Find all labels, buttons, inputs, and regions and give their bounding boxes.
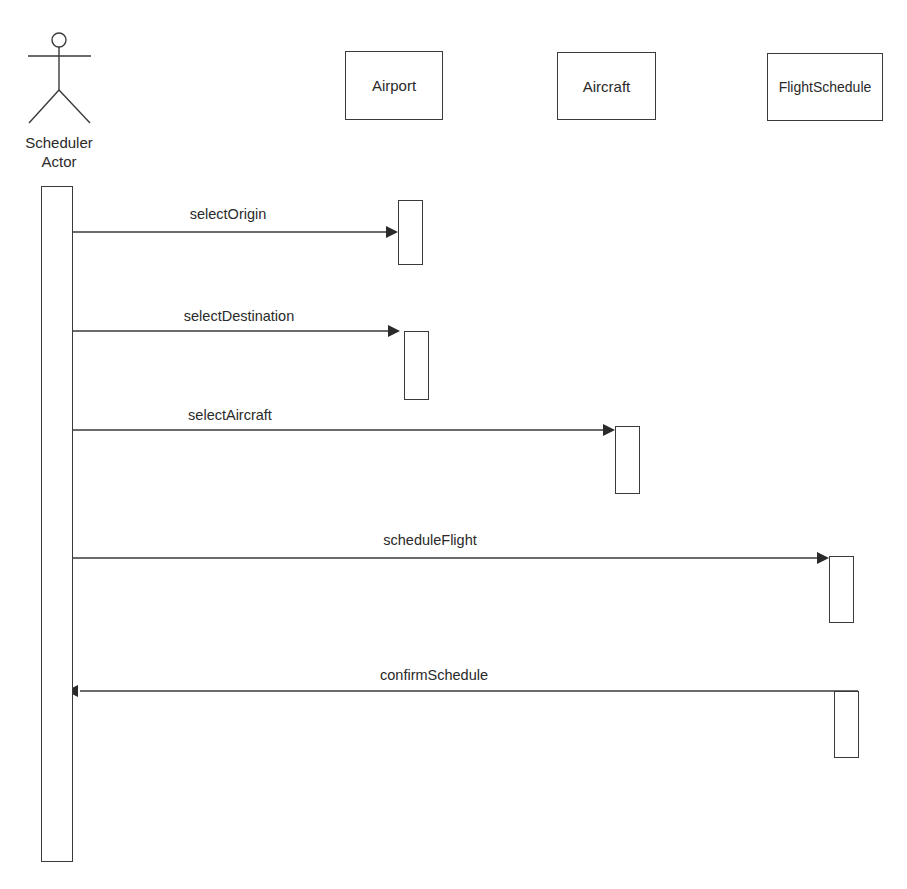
message-label-selectDestination: selectDestination bbox=[184, 308, 294, 324]
participant-aircraft[interactable]: Aircraft bbox=[557, 52, 656, 120]
stick-figure-actor-icon bbox=[28, 33, 91, 123]
actor-label-line1: Scheduler bbox=[9, 133, 109, 152]
actor-label-line2: Actor bbox=[9, 152, 109, 171]
arrow-selectOrigin bbox=[72, 226, 398, 238]
participant-label: Aircraft bbox=[583, 78, 631, 95]
message-label-selectOrigin: selectOrigin bbox=[190, 206, 267, 222]
arrow-scheduleFlight bbox=[72, 552, 829, 564]
actor-label: Scheduler Actor bbox=[9, 133, 109, 171]
message-label-selectAircraft: selectAircraft bbox=[188, 407, 272, 423]
participant-label: FlightSchedule bbox=[779, 79, 872, 95]
activation-airport-2 bbox=[404, 331, 429, 400]
sequence-diagram: Scheduler Actor Airport Aircraft FlightS… bbox=[0, 0, 907, 889]
arrow-selectAircraft bbox=[72, 424, 615, 436]
participant-label: Airport bbox=[372, 77, 416, 94]
participant-airport[interactable]: Airport bbox=[345, 51, 443, 120]
activation-flightschedule-2 bbox=[834, 691, 859, 758]
message-label-confirmSchedule: confirmSchedule bbox=[380, 667, 488, 683]
actor-activation-bar bbox=[41, 186, 73, 862]
arrow-selectDestination bbox=[72, 325, 400, 337]
message-label-scheduleFlight: scheduleFlight bbox=[383, 532, 477, 548]
arrow-confirmSchedule bbox=[66, 685, 858, 697]
diagram-lines bbox=[0, 0, 907, 889]
activation-aircraft bbox=[615, 426, 640, 494]
activation-airport-1 bbox=[398, 200, 423, 265]
participant-flightschedule[interactable]: FlightSchedule bbox=[767, 53, 883, 121]
activation-flightschedule-1 bbox=[829, 556, 854, 623]
